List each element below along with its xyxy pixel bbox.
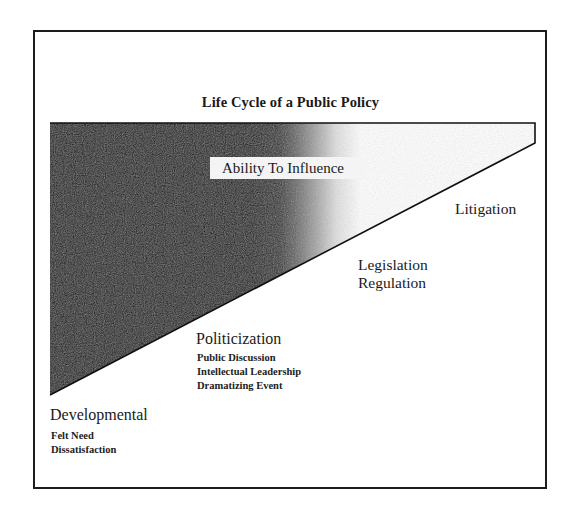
stage-litigation: Litigation — [455, 200, 516, 218]
stage-item: Intellectual Leadership — [197, 365, 301, 379]
politicization-items: Public Discussion Intellectual Leadershi… — [197, 351, 301, 393]
stage-item: Public Discussion — [197, 351, 301, 365]
stage-legislation-label: Legislation — [358, 256, 428, 274]
stage-politicization: Politicization — [196, 330, 281, 348]
developmental-items: Felt Need Dissatisfaction — [51, 429, 116, 457]
stage-item: Felt Need — [51, 429, 116, 443]
stage-item: Dramatizing Event — [197, 379, 301, 393]
stage-regulation-label: Regulation — [358, 274, 428, 292]
stage-item: Dissatisfaction — [51, 443, 116, 457]
stage-developmental: Developmental — [50, 406, 148, 424]
stage-legislation-regulation: Legislation Regulation — [358, 256, 428, 292]
ability-to-influence-label: Ability To Influence — [210, 157, 365, 179]
